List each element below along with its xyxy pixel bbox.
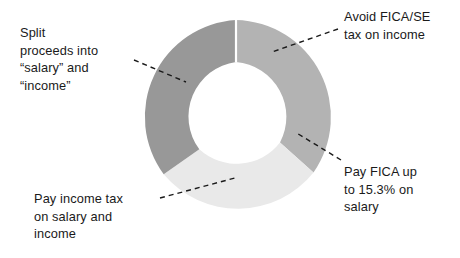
annotation-split-proceeds: Split proceeds into “salary” and “income… (20, 24, 138, 94)
slice-income-tax[interactable] (145, 20, 236, 174)
annotation-pay-income-tax: Pay income tax on salary and income (34, 190, 174, 243)
annotation-avoid-fica: Avoid FICA/SE tax on income (344, 8, 456, 43)
annotation-pay-fica: Pay FICA up to 15.3% on salary (344, 163, 456, 216)
donut-chart: Split proceeds into “salary” and “income… (0, 0, 460, 258)
